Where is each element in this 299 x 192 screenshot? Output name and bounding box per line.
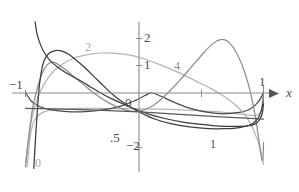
x-tick-label-1: 1 — [259, 75, 266, 88]
y-tick-label-2: 2 — [144, 31, 151, 44]
y-tick-label-0: 0 — [125, 96, 132, 109]
x-axis-arrowhead — [269, 89, 279, 98]
curve-label-0: 0 — [35, 157, 41, 169]
curve-0 — [27, 93, 263, 167]
y-tick-label-neg2: −2 — [126, 139, 140, 152]
plot-canvas — [0, 0, 299, 192]
y-tick-label-1: 1 — [144, 58, 151, 71]
x-tick-label-neg1: −1 — [9, 78, 23, 91]
curve-label-4: 4 — [174, 60, 180, 72]
figure-caption — [0, 180, 299, 192]
x-tick-label-half: .5 — [110, 131, 120, 144]
x-axis-label: x — [286, 86, 292, 99]
curve-label-1: 1 — [210, 138, 216, 150]
figure-container: −1 1 .5 2 1 0 −2 x 0 1 2 4 — [0, 0, 299, 192]
curve-label-2: 2 — [85, 41, 91, 53]
